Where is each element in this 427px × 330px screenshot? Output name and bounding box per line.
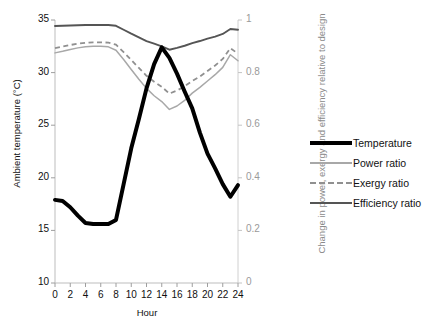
y-tick-label: 30 <box>22 66 49 77</box>
legend-swatch-exergy-ratio-icon <box>308 177 352 189</box>
chart-figure: Ambient temperature (°C) Change in power… <box>0 0 427 330</box>
chart-legend: Temperature Power ratio Exergy ratio Eff… <box>308 133 426 213</box>
legend-item-temperature[interactable]: Temperature <box>308 133 426 153</box>
y-tick-label: 15 <box>22 223 49 234</box>
y-tick-label: 20 <box>22 171 49 182</box>
x-axis-title: Hour <box>55 307 239 318</box>
x-tick-label: 24 <box>228 289 248 300</box>
y-axis-title: Ambient temperature (°C) <box>11 39 22 229</box>
legend-label-power-ratio: Power ratio <box>352 157 406 169</box>
y-tick-label: 25 <box>22 118 49 129</box>
y2-tick-label: 0.2 <box>246 223 260 234</box>
legend-item-exergy-ratio[interactable]: Exergy ratio <box>308 173 426 193</box>
legend-label-exergy-ratio: Exergy ratio <box>352 177 409 189</box>
series-line-power-ratio <box>55 46 238 109</box>
legend-swatch-efficiency-ratio-icon <box>308 197 352 209</box>
y2-tick-label: 0.6 <box>246 118 260 129</box>
y2-tick-label: 0.4 <box>246 171 260 182</box>
legend-label-efficiency-ratio: Efficiency ratio <box>352 197 421 209</box>
y-tick-label: 35 <box>22 13 49 24</box>
y2-tick-label: 0 <box>246 276 252 287</box>
legend-item-efficiency-ratio[interactable]: Efficiency ratio <box>308 193 426 213</box>
y-tick-label: 10 <box>22 276 49 287</box>
y2-tick-label: 1 <box>246 13 252 24</box>
series-line-efficiency-ratio <box>55 25 238 50</box>
series-line-temperature <box>55 47 238 224</box>
legend-swatch-temperature-icon <box>308 137 352 149</box>
y2-tick-label: 0.8 <box>246 66 260 77</box>
legend-swatch-power-ratio-icon <box>308 157 352 169</box>
legend-label-temperature: Temperature <box>352 137 412 149</box>
legend-item-power-ratio[interactable]: Power ratio <box>308 153 426 173</box>
